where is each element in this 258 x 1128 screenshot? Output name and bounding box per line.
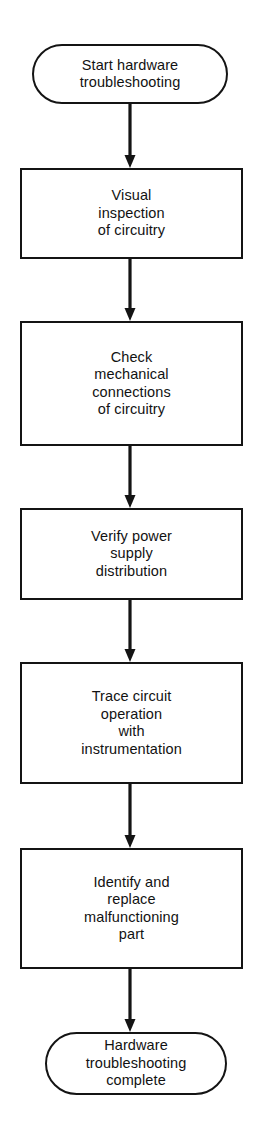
flowchart-node-label: Hardware troubleshooting complete (80, 1037, 193, 1090)
flowchart-node-identify-replace-part: Identify and replace malfunctioning part (20, 848, 243, 969)
flowchart-node-label: Trace circuit operation with instrumenta… (75, 688, 188, 758)
flowchart-node-check-mechanical-connections: Check mechanical connections of circuitr… (20, 321, 243, 446)
flowchart-node-label: Visual inspection of circuitry (92, 187, 171, 240)
flowchart-node-end: Hardware troubleshooting complete (45, 1032, 227, 1095)
arrowhead (125, 1019, 136, 1032)
arrowhead (125, 308, 136, 321)
arrowhead (125, 155, 136, 168)
arrowhead (125, 835, 136, 848)
connector-trace-circuit-operation-to-identify-replace-part (119, 784, 141, 848)
flowchart-node-label: Check mechanical connections of circuitr… (86, 349, 177, 419)
flowchart-node-trace-circuit-operation: Trace circuit operation with instrumenta… (20, 662, 243, 784)
flowchart-node-visual-inspection: Visual inspection of circuitry (20, 168, 243, 259)
connector-identify-replace-part-to-end (119, 969, 141, 1032)
connector-check-mechanical-connections-to-verify-power-supply (119, 446, 141, 508)
arrowhead (125, 649, 136, 662)
flowchart-node-label: Start hardware troubleshooting (74, 57, 187, 92)
connector-verify-power-supply-to-trace-circuit-operation (119, 600, 141, 662)
connector-visual-inspection-to-check-mechanical-connections (119, 259, 141, 321)
flowchart-node-label: Identify and replace malfunctioning part (78, 874, 185, 944)
flowchart-node-verify-power-supply: Verify power supply distribution (20, 508, 243, 600)
arrowhead (125, 495, 136, 508)
flowchart-diagram: Start hardware troubleshootingVisual ins… (0, 0, 258, 1128)
flowchart-node-start: Start hardware troubleshooting (32, 44, 228, 104)
flowchart-node-label: Verify power supply distribution (85, 528, 178, 581)
connector-start-to-visual-inspection (119, 104, 141, 168)
